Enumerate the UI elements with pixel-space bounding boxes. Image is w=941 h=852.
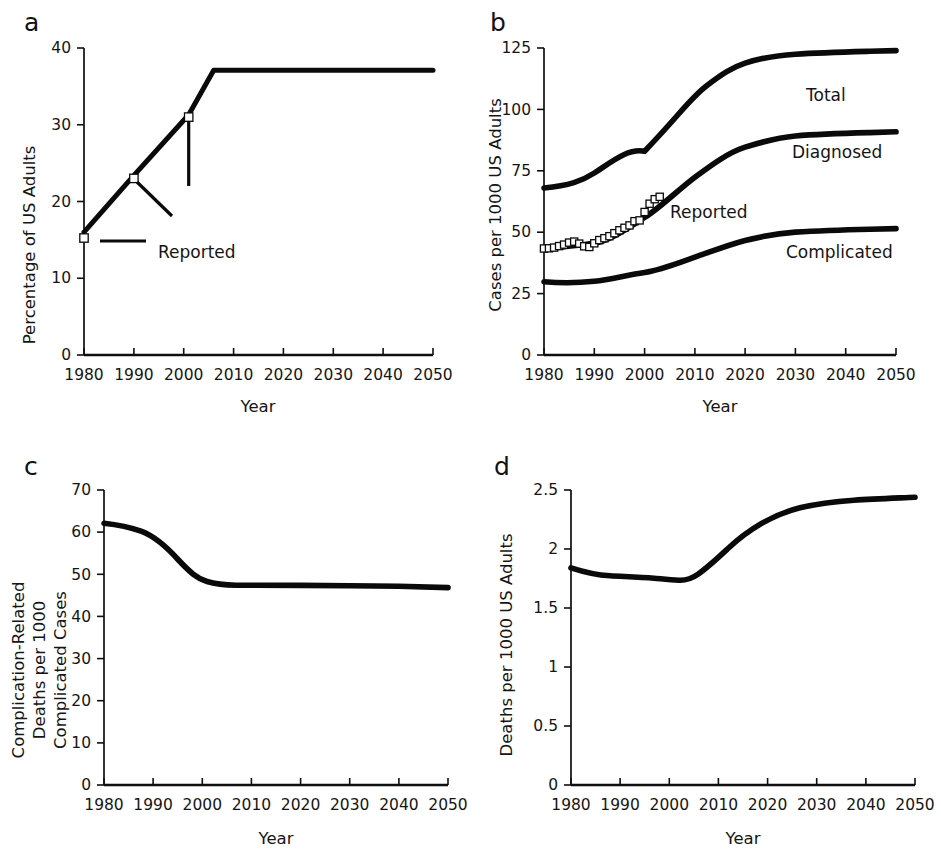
panel-a-xtick-2050: 2050 bbox=[413, 366, 452, 384]
panel-d-deaths-curve bbox=[571, 497, 915, 580]
panel-d-xtick-2000: 2000 bbox=[650, 796, 689, 814]
panel-b-xtick-2020: 2020 bbox=[725, 366, 764, 384]
panel-a-ylabel: Percentage of US Adults bbox=[20, 146, 39, 345]
panel-c-ylabel-line3: Complicated Cases bbox=[51, 591, 70, 749]
panel-c-ytick-10: 10 bbox=[71, 734, 91, 752]
panel-d-y-ticks: 2.5 2 1.5 1 0.5 0 bbox=[533, 481, 571, 794]
panel-b-complicated-label: Complicated bbox=[786, 242, 893, 262]
panel-c-y-ticks: 70 60 50 40 30 20 10 0 bbox=[71, 481, 104, 794]
panel-a-marker-1980 bbox=[80, 234, 88, 242]
panel-b-ylabel: Cases per 1000 US Adults bbox=[486, 98, 505, 312]
panel-a-xtick-2000: 2000 bbox=[164, 366, 203, 384]
figure-grid: a Percentage of US Adults 40 30 20 10 0 bbox=[0, 0, 941, 852]
panel-b-x-ticks: 1980 1990 2000 2010 2020 2030 2040 2050 bbox=[524, 348, 915, 384]
panel-d-ytick-2-5: 2.5 bbox=[533, 481, 558, 499]
panel-b-xtick-2040: 2040 bbox=[826, 366, 865, 384]
panel-b-xtick-1980: 1980 bbox=[524, 366, 563, 384]
panel-c-ytick-40: 40 bbox=[71, 608, 91, 626]
panel-a-plot: Percentage of US Adults 40 30 20 10 0 bbox=[0, 0, 470, 430]
panel-b-xtick-2000: 2000 bbox=[625, 366, 664, 384]
panel-d-xlabel: Year bbox=[725, 829, 761, 848]
panel-a-xlabel: Year bbox=[240, 397, 276, 416]
panel-c-xtick-2050: 2050 bbox=[428, 796, 467, 814]
panel-a-ytick-30: 30 bbox=[51, 116, 71, 134]
panel-d-x-ticks: 1980 1990 2000 2010 2020 2030 2040 2050 bbox=[551, 778, 934, 814]
panel-a-ytick-0: 0 bbox=[61, 346, 71, 364]
panel-b-y-ticks: 125 100 75 50 25 0 bbox=[501, 39, 544, 364]
panel-b-xtick-2010: 2010 bbox=[675, 366, 714, 384]
panel-b-xlabel: Year bbox=[702, 397, 738, 416]
panel-c-ytick-0: 0 bbox=[81, 776, 91, 794]
panel-b-xtick-2030: 2030 bbox=[776, 366, 815, 384]
panel-a-y-ticks: 40 30 20 10 0 bbox=[51, 39, 84, 364]
panel-c-xtick-1990: 1990 bbox=[133, 796, 172, 814]
panel-c-death-rate-curve bbox=[104, 523, 448, 587]
panel-c-ytick-70: 70 bbox=[71, 481, 91, 499]
panel-b-ytick-25: 25 bbox=[511, 285, 531, 303]
panel-a-xtick-1990: 1990 bbox=[114, 366, 153, 384]
panel-b-ytick-125: 125 bbox=[501, 39, 531, 57]
panel-b-reported-markers bbox=[540, 193, 663, 252]
panel-d-xtick-2030: 2030 bbox=[797, 796, 836, 814]
panel-d-ytick-0-0: 0 bbox=[548, 776, 558, 794]
panel-b-diagnosed-label: Diagnosed bbox=[792, 142, 882, 162]
panel-d-plot: Deaths per 1000 US Adults 2.5 2 1.5 1 0.… bbox=[470, 430, 941, 852]
panel-c-ylabel-line1: Complication-Related bbox=[9, 582, 28, 759]
panel-c-ytick-50: 50 bbox=[71, 566, 91, 584]
panel-d-xtick-2040: 2040 bbox=[846, 796, 885, 814]
panel-c: c Complication-Related Deaths per 1000 C… bbox=[0, 430, 470, 852]
panel-c-xlabel: Year bbox=[258, 829, 294, 848]
panel-d-xtick-2020: 2020 bbox=[748, 796, 787, 814]
panel-b-plot: Cases per 1000 US Adults 125 100 75 50 2… bbox=[470, 0, 941, 430]
panel-c-ytick-60: 60 bbox=[71, 523, 91, 541]
panel-b: b Cases per 1000 US Adults 125 100 75 50… bbox=[470, 0, 941, 430]
panel-b-ytick-0: 0 bbox=[521, 346, 531, 364]
panel-a-leader-diagonal bbox=[137, 182, 172, 216]
panel-a-xtick-2020: 2020 bbox=[264, 366, 303, 384]
panel-b-ytick-100: 100 bbox=[501, 101, 531, 119]
panel-c-xtick-2030: 2030 bbox=[330, 796, 369, 814]
panel-a-xtick-2030: 2030 bbox=[314, 366, 353, 384]
panel-a-xtick-1980: 1980 bbox=[64, 366, 103, 384]
panel-d-ytick-2-0: 2 bbox=[548, 540, 558, 558]
panel-c-xtick-2040: 2040 bbox=[379, 796, 418, 814]
panel-a-reported-label: Reported bbox=[158, 242, 236, 262]
panel-b-xtick-1990: 1990 bbox=[575, 366, 614, 384]
panel-c-ylabel: Complication-Related Deaths per 1000 Com… bbox=[9, 582, 70, 759]
panel-d-ylabel: Deaths per 1000 US Adults bbox=[497, 534, 516, 757]
panel-a-ytick-20: 20 bbox=[51, 193, 71, 211]
panel-a-ytick-10: 10 bbox=[51, 269, 71, 287]
panel-a-xtick-2040: 2040 bbox=[363, 366, 402, 384]
panel-d-xtick-1980: 1980 bbox=[551, 796, 590, 814]
panel-a: a Percentage of US Adults 40 30 20 10 0 bbox=[0, 0, 470, 430]
panel-a-x-ticks: 1980 1990 2000 2010 2020 2030 2040 2050 bbox=[64, 348, 452, 384]
panel-d-ytick-1-5: 1.5 bbox=[533, 599, 558, 617]
panel-a-ytick-40: 40 bbox=[51, 39, 71, 57]
panel-d-xtick-2010: 2010 bbox=[699, 796, 738, 814]
panel-c-x-ticks: 1980 1990 2000 2010 2020 2030 2040 2050 bbox=[84, 778, 467, 814]
panel-d-xtick-1990: 1990 bbox=[600, 796, 639, 814]
panel-d-ytick-1-0: 1 bbox=[548, 658, 558, 676]
panel-d-xtick-2050: 2050 bbox=[895, 796, 934, 814]
panel-b-ytick-75: 75 bbox=[511, 162, 531, 180]
panel-c-ylabel-line2: Deaths per 1000 bbox=[30, 601, 49, 739]
panel-a-marker-1990 bbox=[130, 174, 138, 182]
panel-d: d Deaths per 1000 US Adults 2.5 2 1.5 1 … bbox=[470, 430, 941, 852]
panel-c-ytick-20: 20 bbox=[71, 692, 91, 710]
panel-c-xtick-1980: 1980 bbox=[84, 796, 123, 814]
panel-a-xtick-2010: 2010 bbox=[214, 366, 253, 384]
panel-c-ytick-30: 30 bbox=[71, 650, 91, 668]
panel-a-prevalence-curve bbox=[84, 70, 433, 232]
panel-d-ytick-0-5: 0.5 bbox=[533, 717, 558, 735]
panel-c-plot: Complication-Related Deaths per 1000 Com… bbox=[0, 430, 470, 852]
panel-c-xtick-2010: 2010 bbox=[232, 796, 271, 814]
panel-b-reported-label: Reported bbox=[670, 202, 748, 222]
panel-a-marker-2001 bbox=[185, 113, 193, 121]
panel-b-ytick-50: 50 bbox=[511, 223, 531, 241]
panel-b-total-curve bbox=[544, 51, 896, 188]
panel-b-total-label: Total bbox=[805, 85, 846, 105]
panel-c-xtick-2000: 2000 bbox=[183, 796, 222, 814]
panel-b-xtick-2050: 2050 bbox=[876, 366, 915, 384]
panel-c-xtick-2020: 2020 bbox=[281, 796, 320, 814]
